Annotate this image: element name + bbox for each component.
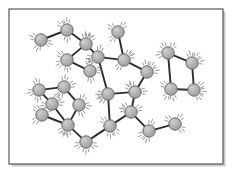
particle-node <box>102 88 114 100</box>
vibration-stroke <box>139 132 142 133</box>
particle-node <box>125 106 137 118</box>
bond-10-11 <box>177 89 189 90</box>
bond-18-21 <box>114 92 130 93</box>
particle-node <box>73 99 85 111</box>
vibration-stroke <box>62 77 63 80</box>
vibration-stroke <box>202 91 206 92</box>
particle-node <box>36 109 48 121</box>
particle-node <box>118 54 130 66</box>
vibration-stroke <box>62 94 63 97</box>
particle-node <box>169 118 181 130</box>
bond-9-11 <box>192 69 193 85</box>
particle-node <box>46 98 58 110</box>
particle-node <box>80 136 92 148</box>
particle-node <box>188 84 200 96</box>
particle-node <box>112 26 124 38</box>
particle-node <box>162 47 174 59</box>
vibration-stroke <box>86 103 89 104</box>
particle-node <box>92 51 104 63</box>
particle-node <box>33 84 45 96</box>
particle-node <box>61 24 73 36</box>
particle-node <box>62 119 74 131</box>
vibration-stroke <box>88 78 89 81</box>
particle-node <box>84 65 96 77</box>
particle-node <box>186 57 198 69</box>
vibration-stroke <box>40 97 41 100</box>
vibration-stroke <box>133 82 134 85</box>
particle-node <box>129 86 141 98</box>
vibration-stroke <box>142 94 145 95</box>
particle-node <box>58 81 70 93</box>
figure-root <box>0 0 232 173</box>
particle-node <box>80 38 92 50</box>
particle-node <box>165 83 177 95</box>
particle-node <box>104 120 116 132</box>
vibration-stroke <box>86 58 90 59</box>
bond-18-19 <box>108 100 109 121</box>
particle-node <box>141 66 153 78</box>
vibration-stroke <box>155 70 159 71</box>
vibration-stroke <box>145 60 146 64</box>
particle-node <box>35 34 47 46</box>
vibration-stroke <box>97 73 100 74</box>
network-diagram <box>0 0 232 173</box>
particle-node <box>61 54 73 66</box>
vibration-stroke <box>131 58 134 59</box>
particle-node <box>143 125 155 137</box>
